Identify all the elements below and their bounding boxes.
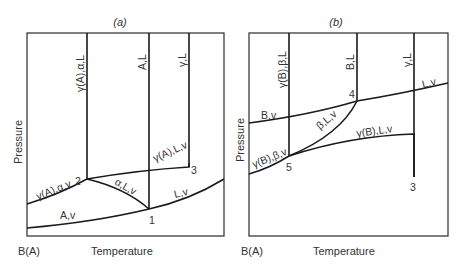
- panel-b-label-L-v: L,v: [421, 75, 438, 90]
- panel-b-curve-gamma-L-v: [289, 134, 414, 177]
- panel-b-label-gamma-L: γ,L: [401, 53, 413, 67]
- panel-a-point-1: 1: [149, 214, 155, 226]
- panel-b-label-B-L: B,L: [344, 54, 356, 70]
- panel-a-label-A-v: A,v: [60, 209, 76, 221]
- panel-a-curve-gamma-L-v: [87, 163, 189, 179]
- panel-a-origin-label: B(A): [18, 245, 40, 257]
- panel-b-origin-label: B(A): [241, 245, 263, 257]
- panel-a: (a) γ(A),α,L A,L γ,L γ(A),α,v α,L,v γ(A)…: [12, 16, 224, 257]
- panel-b-point-4: 4: [349, 88, 355, 100]
- panel-a-xlabel: Temperature: [91, 245, 153, 257]
- panel-a-title: (a): [113, 16, 127, 28]
- panel-b-label-gamma-L-v: γ(B),L,v: [356, 122, 394, 139]
- panel-a-curve-A-v: [27, 209, 149, 228]
- panel-b-ylabel: Pressure: [234, 118, 246, 162]
- panel-a-point-2: 2: [75, 175, 81, 187]
- panel-a-ylabel: Pressure: [12, 120, 24, 164]
- panel-a-label-A-L: A,L: [136, 54, 148, 70]
- panel-b-title: (b): [329, 16, 343, 28]
- panel-a-frame: [27, 33, 224, 236]
- panel-a-label-gamma-alpha-v: γ(A),α,v: [34, 177, 73, 202]
- panel-a-label-gamma-alpha-L: γ(A),α,L: [74, 55, 86, 92]
- panel-b-label-gamma-beta-L: γ(B),β,L: [276, 51, 288, 88]
- panel-b-xlabel: Temperature: [313, 245, 375, 257]
- panel-b: (b) γ(B),β,L B,L γ,L B,v L,v β,L,v γ(B),…: [234, 16, 448, 257]
- panel-a-label-gamma-L-v: γ(A),L,v: [151, 138, 190, 164]
- panel-b-label-B-v: B,v: [261, 109, 277, 121]
- panel-a-point-3: 3: [191, 164, 197, 176]
- panel-b-point-3: 3: [410, 181, 416, 193]
- panel-b-point-5: 5: [286, 161, 292, 173]
- phase-diagram-figure: (a) γ(A),α,L A,L γ,L γ(A),α,v α,L,v γ(A)…: [0, 0, 461, 266]
- panel-a-label-gamma-L: γ,L: [176, 53, 188, 67]
